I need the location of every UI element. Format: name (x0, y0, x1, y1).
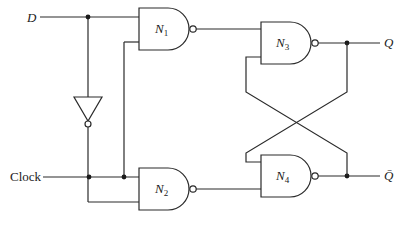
clock-junction-dot (122, 175, 127, 180)
nand-gate-n2: N2 (139, 168, 196, 210)
d-input-label: D (26, 10, 37, 25)
d-latch-diagram: D Clock N1 N2 N3 Q (0, 0, 406, 226)
d-junction-dot (86, 15, 91, 20)
clock-inverter-junction-dot (87, 175, 92, 180)
nand-gate-n4: N4 (261, 155, 318, 197)
inverter-gate (74, 97, 102, 127)
nand-gate-n1: N1 (139, 8, 196, 50)
q-bar-output-label: Q̄ (384, 168, 394, 183)
clock-input-label: Clock (10, 169, 42, 184)
nand-gate-n3: N3 (261, 22, 318, 64)
q-output-label: Q (384, 35, 394, 50)
